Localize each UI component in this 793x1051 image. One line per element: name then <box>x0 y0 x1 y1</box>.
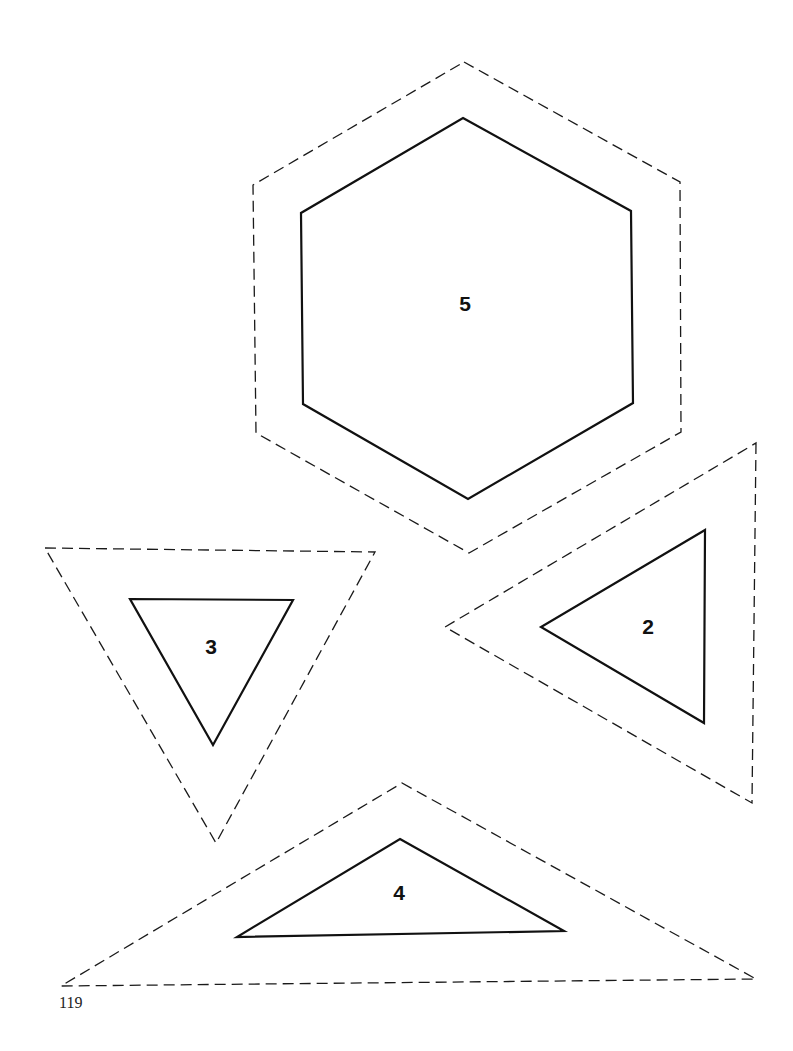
triangle-4-cut-line <box>61 783 756 986</box>
triangle-2-sew-line <box>541 530 705 723</box>
triangle-3-label: 3 <box>205 635 217 658</box>
triangle-3-cut-line <box>45 548 375 843</box>
template-sheet: 5 2 3 4 <box>0 0 793 1051</box>
hexagon-template-5: 5 <box>253 62 681 553</box>
triangle-4-label: 4 <box>393 881 405 904</box>
hexagon-label: 5 <box>459 292 471 315</box>
page-number: 119 <box>59 994 82 1012</box>
triangle-template-3: 3 <box>45 548 375 843</box>
triangle-template-4: 4 <box>61 783 756 986</box>
triangle-template-2: 2 <box>445 443 756 803</box>
triangle-2-label: 2 <box>642 615 654 638</box>
triangle-2-cut-line <box>445 443 756 803</box>
triangle-3-sew-line <box>130 599 293 745</box>
